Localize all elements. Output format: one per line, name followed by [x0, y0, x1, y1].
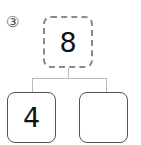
connector-bar — [32, 78, 107, 79]
problem-number: ③ — [6, 14, 19, 29]
part-box-right[interactable] — [79, 92, 128, 143]
connector-left — [32, 78, 33, 92]
whole-box: 8 — [43, 16, 93, 68]
connector-right — [106, 78, 107, 92]
part-box-left: 4 — [7, 92, 56, 143]
